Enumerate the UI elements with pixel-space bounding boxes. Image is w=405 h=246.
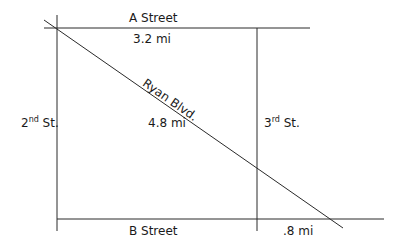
b-street-extension-distance: .8 mi: [283, 224, 313, 238]
street-diagram: [0, 0, 405, 246]
ryan-blvd-distance: 4.8 mi: [148, 116, 186, 130]
a-street-distance: 3.2 mi: [133, 32, 171, 46]
second-st-label: 2nd St.: [21, 116, 59, 130]
a-street-label: A Street: [129, 11, 178, 25]
b-street-label: B Street: [129, 224, 178, 238]
third-st-label: 3rd St.: [264, 116, 300, 130]
